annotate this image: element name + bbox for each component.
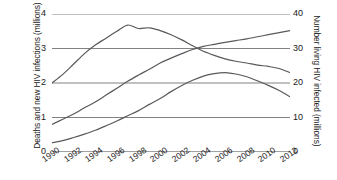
x-tick-2012: 2012 [278, 145, 299, 164]
x-tick-1996: 1996 [105, 145, 126, 164]
x-tick-2006: 2006 [213, 145, 234, 164]
x-tick-2000: 2000 [148, 145, 169, 164]
x-tick-1998: 1998 [127, 145, 148, 164]
x-tick-1994: 1994 [83, 145, 104, 164]
x-tick-1990: 1990 [40, 145, 61, 164]
x-tick-2010: 2010 [256, 145, 277, 164]
x-axis-tick-labels: 1990199219941996199820002002200420062008… [0, 0, 337, 180]
x-tick-2008: 2008 [235, 145, 256, 164]
x-tick-2002: 2002 [170, 145, 191, 164]
x-tick-2004: 2004 [191, 145, 212, 164]
x-tick-1992: 1992 [62, 145, 83, 164]
hiv-line-chart: Deaths and new HIV infections (millions)… [0, 0, 337, 180]
